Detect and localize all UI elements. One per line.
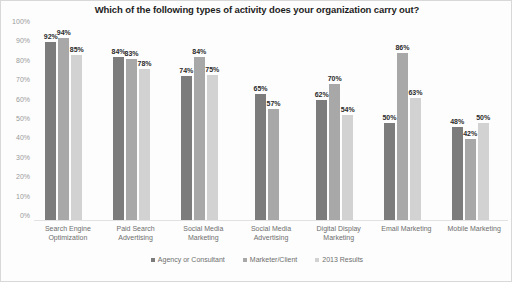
- bar-value-label: 65%: [253, 85, 267, 93]
- legend-item[interactable]: Marketer/Client: [243, 256, 297, 263]
- bar-value-label: 94%: [57, 29, 71, 37]
- bar-value-label: 48%: [450, 118, 464, 126]
- bar[interactable]: [452, 127, 463, 220]
- category-label: Search Engine Optimization: [34, 224, 102, 242]
- bar[interactable]: [329, 84, 340, 220]
- y-axis-tick: 70%: [16, 76, 30, 83]
- legend-label: Marketer/Client: [250, 256, 297, 263]
- bar-column[interactable]: 57%: [268, 26, 279, 220]
- y-axis: 100%90%80%70%60%50%40%30%20%10%0%: [1, 21, 34, 215]
- bar-value-label: 70%: [328, 75, 342, 83]
- bar-group: 48%42%50%: [452, 26, 489, 220]
- bar[interactable]: [255, 94, 266, 220]
- bar[interactable]: [58, 38, 69, 220]
- bar-column[interactable]: 74%: [181, 26, 192, 220]
- bar[interactable]: [478, 123, 489, 220]
- bar-column[interactable]: 48%: [452, 26, 463, 220]
- legend-swatch-icon: [243, 258, 247, 262]
- bar-group: 50%86%63%: [384, 26, 421, 220]
- bar-column[interactable]: 83%: [126, 26, 137, 220]
- x-axis-line: [34, 220, 508, 221]
- bar-column[interactable]: 63%: [410, 26, 421, 220]
- bar-column[interactable]: 70%: [329, 26, 340, 220]
- bar[interactable]: [268, 109, 279, 220]
- bar-value-label: 42%: [463, 130, 477, 138]
- bar-value-label: 83%: [125, 50, 139, 58]
- y-axis-tick: 10%: [16, 192, 30, 199]
- bar-column[interactable]: 84%: [194, 26, 205, 220]
- legend-swatch-icon: [315, 258, 319, 262]
- bar-value-label: 74%: [179, 67, 193, 75]
- chart-title: Which of the following types of activity…: [1, 4, 513, 15]
- y-axis-tick: 60%: [16, 95, 30, 102]
- bar-column[interactable]: 50%: [384, 26, 395, 220]
- y-axis-tick: 80%: [16, 56, 30, 63]
- y-axis-tick: 30%: [16, 153, 30, 160]
- bar-column[interactable]: 75%: [207, 26, 218, 220]
- y-axis-tick: 90%: [16, 37, 30, 44]
- legend-label: Agency or Consultant: [158, 256, 225, 263]
- bar[interactable]: [316, 100, 327, 220]
- category-label: Social Media Advertising: [237, 224, 305, 242]
- bar-value-label: 63%: [408, 89, 422, 97]
- chart-container: Which of the following types of activity…: [0, 0, 512, 282]
- bar[interactable]: [126, 59, 137, 220]
- legend-item[interactable]: Agency or Consultant: [151, 256, 225, 263]
- bar-column[interactable]: 62%: [316, 26, 327, 220]
- bar-value-label: 57%: [266, 100, 280, 108]
- bar-value-label: 85%: [70, 46, 84, 54]
- bar-column[interactable]: 50%: [478, 26, 489, 220]
- legend-label: 2013 Results: [322, 256, 363, 263]
- bar-group: 62%70%54%: [316, 26, 353, 220]
- bar-value-label: 54%: [341, 106, 355, 114]
- bar-value-label: 92%: [44, 33, 58, 41]
- y-axis-tick: 20%: [16, 173, 30, 180]
- bar-group: 84%83%78%: [113, 26, 150, 220]
- bar-value-label: 78%: [138, 60, 152, 68]
- bar[interactable]: [45, 42, 56, 220]
- bar-group: 65%57%: [255, 26, 279, 220]
- y-axis-tick: 50%: [16, 115, 30, 122]
- category-label: Paid Search Advertising: [102, 224, 170, 242]
- bar[interactable]: [113, 57, 124, 220]
- bar[interactable]: [397, 53, 408, 220]
- y-axis-tick: 0%: [20, 212, 30, 219]
- bar-column[interactable]: 92%: [45, 26, 56, 220]
- bar-value-label: 86%: [395, 44, 409, 52]
- bar-column[interactable]: 42%: [465, 26, 476, 220]
- bar-value-label: 84%: [192, 48, 206, 56]
- category-label: Mobile Marketing: [440, 224, 508, 233]
- bar-value-label: 84%: [112, 48, 126, 56]
- bar[interactable]: [207, 75, 218, 221]
- bar[interactable]: [342, 115, 353, 220]
- bar[interactable]: [194, 57, 205, 220]
- category-label: Digital Display Marketing: [305, 224, 373, 242]
- bar[interactable]: [71, 55, 82, 220]
- category-axis-labels: Search Engine OptimizationPaid Search Ad…: [34, 224, 508, 250]
- bar[interactable]: [410, 98, 421, 220]
- bar[interactable]: [139, 69, 150, 220]
- bar[interactable]: [465, 139, 476, 220]
- plot-area: 92%94%85%84%83%78%74%84%75%65%57%62%70%5…: [34, 26, 508, 220]
- bar-value-label: 50%: [476, 114, 490, 122]
- bar-group: 92%94%85%: [45, 26, 82, 220]
- bar-value-label: 75%: [205, 66, 219, 74]
- bar-column[interactable]: 84%: [113, 26, 124, 220]
- category-label: Social Media Marketing: [169, 224, 237, 242]
- chart-legend: Agency or ConsultantMarketer/Client2013 …: [1, 256, 513, 263]
- bar-column[interactable]: 78%: [139, 26, 150, 220]
- y-axis-tick: 40%: [16, 134, 30, 141]
- bar[interactable]: [384, 123, 395, 220]
- y-axis-tick: 100%: [12, 18, 30, 25]
- bar-column[interactable]: 94%: [58, 26, 69, 220]
- bar[interactable]: [181, 76, 192, 220]
- category-label: Email Marketing: [373, 224, 441, 233]
- bar-column[interactable]: 86%: [397, 26, 408, 220]
- bar-column[interactable]: 65%: [255, 26, 266, 220]
- legend-item[interactable]: 2013 Results: [315, 256, 363, 263]
- bar-column[interactable]: 54%: [342, 26, 353, 220]
- bar-value-label: 62%: [315, 91, 329, 99]
- bar-group: 74%84%75%: [181, 26, 218, 220]
- bar-column[interactable]: 85%: [71, 26, 82, 220]
- bar-value-label: 50%: [382, 114, 396, 122]
